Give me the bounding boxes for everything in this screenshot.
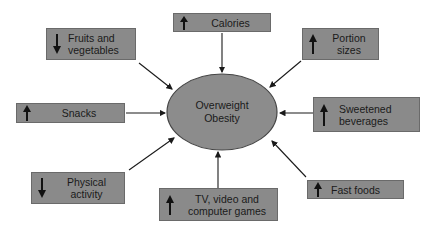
factor-label: Snacks <box>34 107 124 119</box>
factor-calories: Calories <box>173 13 271 32</box>
connector-portion <box>270 61 301 87</box>
connector-fruits <box>139 63 172 89</box>
up-arrow-icon <box>163 195 177 215</box>
factor-portion: Portion sizes <box>302 28 379 60</box>
factor-label: Portion sizes <box>320 32 378 56</box>
up-arrow-icon <box>177 16 191 30</box>
down-arrow-icon <box>50 34 64 54</box>
factor-label: Fast foods <box>325 184 403 196</box>
down-arrow-icon <box>35 178 49 198</box>
factor-label: Physical activity <box>49 176 124 200</box>
center-ellipse <box>167 74 277 150</box>
factor-label: Fruits and vegetables <box>64 32 135 56</box>
factor-fastfoods: Fast foods <box>307 180 404 199</box>
factor-sweetened: Sweetened beverages <box>313 97 420 132</box>
factor-snacks: Snacks <box>16 103 125 123</box>
factor-label: Calories <box>191 17 270 29</box>
up-arrow-icon <box>306 34 320 54</box>
factor-physical: Physical activity <box>31 172 125 204</box>
factor-label: TV, video and computer games <box>177 193 277 217</box>
factor-label: Sweetened beverages <box>331 103 419 127</box>
up-arrow-icon <box>311 182 325 197</box>
up-arrow-icon <box>20 105 34 121</box>
up-arrow-icon <box>317 104 331 126</box>
factor-fruits: Fruits and vegetables <box>46 28 136 60</box>
factor-tv: TV, video and computer games <box>159 188 278 221</box>
connector-physical <box>129 138 174 170</box>
connector-fastfoods <box>272 141 306 177</box>
